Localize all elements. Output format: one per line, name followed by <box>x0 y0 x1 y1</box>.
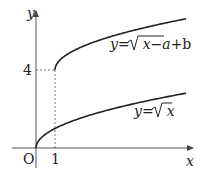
graph-canvas: y x O 1 4 y=x−a+b y=x <box>0 0 202 180</box>
x-axis-label: x <box>186 153 194 169</box>
x-tick-1: 1 <box>51 151 60 167</box>
curve-sqrt-x <box>36 93 186 148</box>
y-tick-4: 4 <box>23 62 32 78</box>
svg-text:y=x: y=x <box>133 103 175 119</box>
upper-curve-label: y=x−a+b <box>109 36 191 52</box>
origin-label: O <box>23 151 34 167</box>
svg-text:y=x−a+b: y=x−a+b <box>109 36 191 52</box>
lower-curve-label: y=x <box>133 103 175 119</box>
y-axis-label: y <box>26 5 36 21</box>
